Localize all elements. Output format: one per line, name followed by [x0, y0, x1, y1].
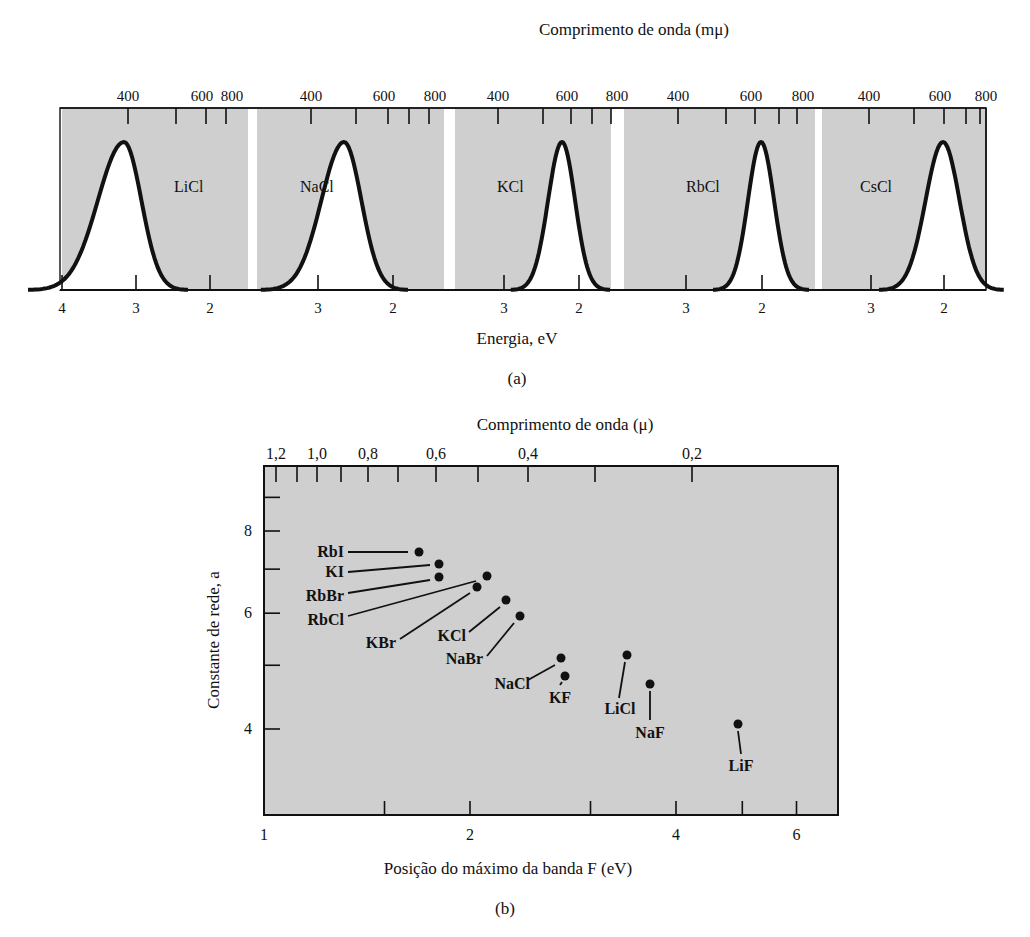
spectrum-panel-cscl: CsCl40060080032: [822, 88, 1004, 316]
wavelength-tick-label: 800: [975, 88, 998, 104]
wavelength-tick-label: 400: [487, 88, 510, 104]
energy-tick-label: 4: [58, 300, 66, 316]
x-axis-title-a: Energia, eV: [477, 329, 559, 348]
wavelength-tick-label: 0,6: [426, 445, 446, 462]
wavelength-tick-label: 600: [556, 88, 579, 104]
point-label: LiF: [729, 757, 754, 774]
x-tick-label: 1: [260, 826, 268, 843]
point-label: RbCl: [308, 611, 345, 628]
spectrum-panel-kcl: KCl40060080032: [455, 88, 628, 316]
y-tick-label: 6: [244, 604, 252, 621]
wavelength-tick-label: 800: [792, 88, 815, 104]
x-tick-label: 4: [672, 826, 680, 843]
point-label: RbI: [317, 543, 344, 560]
y-axis-title-b: Constante de rede, a: [204, 571, 223, 709]
energy-tick-label: 2: [758, 300, 766, 316]
wavelength-tick-label: 400: [667, 88, 690, 104]
energy-tick-label: 3: [314, 300, 322, 316]
point-label: NaBr: [446, 650, 483, 667]
wavelength-tick-label: 800: [606, 88, 629, 104]
figure: LiCl400600800432NaCl40060080032KCl400600…: [0, 0, 1030, 937]
energy-tick-label: 2: [389, 300, 397, 316]
x-tick-label: 6: [793, 826, 801, 843]
point-label: RbBr: [306, 587, 344, 604]
x-tick-label: 2: [466, 826, 474, 843]
panel-label: RbCl: [686, 178, 720, 195]
caption-a: (a): [508, 369, 527, 388]
energy-tick-label: 3: [682, 300, 690, 316]
spectrum-panel-nacl: NaCl40060080032: [257, 88, 446, 316]
panel-label: LiCl: [174, 178, 204, 195]
wavelength-tick-label: 400: [117, 88, 140, 104]
energy-tick-label: 2: [206, 300, 214, 316]
wavelength-tick-label: 400: [300, 88, 323, 104]
wavelength-tick-label: 0,8: [358, 445, 378, 462]
spectrum-panel-rbcl: RbCl40060080032: [624, 88, 815, 316]
wavelength-tick-label: 400: [858, 88, 881, 104]
wavelength-tick-label: 1,2: [266, 445, 286, 462]
panel-label: KCl: [497, 178, 524, 195]
energy-tick-label: 3: [132, 300, 140, 316]
wavelength-tick-label: 600: [191, 88, 214, 104]
energy-tick-label: 3: [500, 300, 508, 316]
panel-label: NaCl: [300, 178, 334, 195]
wavelength-tick-label: 600: [929, 88, 952, 104]
chart-a: LiCl400600800432NaCl40060080032KCl400600…: [28, 20, 1004, 388]
point-label: LiCl: [604, 700, 636, 717]
x-axis-title-b: Posição do máximo da banda F (eV): [384, 859, 632, 878]
y-tick-label: 8: [244, 522, 252, 539]
wavelength-tick-label: 0,4: [518, 445, 538, 462]
point-label: KI: [325, 563, 344, 580]
panel-label: CsCl: [860, 178, 893, 195]
wavelength-tick-label: 800: [424, 88, 447, 104]
wavelength-tick-label: 600: [373, 88, 396, 104]
wavelength-tick-label: 600: [740, 88, 763, 104]
energy-tick-label: 2: [575, 300, 583, 316]
wavelength-tick-label: 1,0: [307, 445, 327, 462]
point-label: NaCl: [494, 675, 530, 692]
point-label: NaF: [635, 724, 665, 741]
top-axis-title-b: Comprimento de onda (μ): [477, 415, 654, 434]
point-label: KCl: [438, 627, 467, 644]
point-label: KBr: [366, 634, 396, 651]
energy-tick-label: 3: [867, 300, 875, 316]
caption-b: (b): [495, 899, 515, 918]
wavelength-tick-label: 0,2: [682, 445, 702, 462]
wavelength-tick-label: 800: [221, 88, 244, 104]
chart-b: 12464681,21,00,80,60,40,2Comprimento de …: [204, 415, 838, 918]
energy-tick-label: 2: [940, 300, 948, 316]
point-label: KF: [549, 689, 571, 706]
top-axis-title-a: Comprimento de onda (mμ): [539, 20, 729, 39]
y-tick-label: 4: [244, 720, 252, 737]
